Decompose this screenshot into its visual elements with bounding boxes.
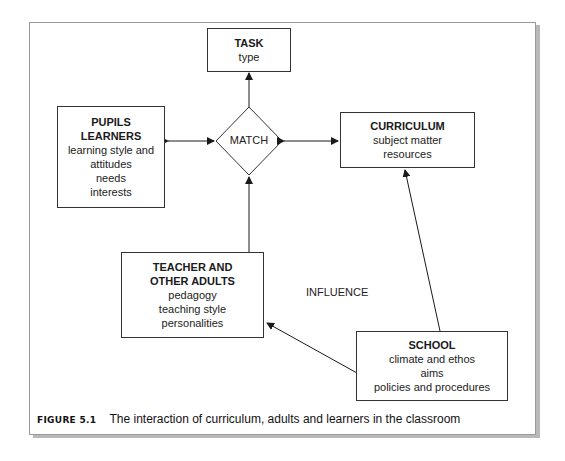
influence-label: INFLUENCE xyxy=(306,286,368,298)
curriculum-title: CURRICULUM xyxy=(370,119,445,133)
pupils-line: learning style and xyxy=(68,143,154,157)
school-line: aims xyxy=(420,366,443,380)
curriculum-box: CURRICULUM subject matter resources xyxy=(340,112,475,168)
pupils-line: needs xyxy=(96,171,126,185)
school-line: climate and ethos xyxy=(389,352,475,366)
other-adults-title: OTHER ADULTS xyxy=(150,274,235,288)
task-title: TASK xyxy=(234,36,263,50)
pupils-line: attitudes xyxy=(90,157,132,171)
teacher-line: personalities xyxy=(162,316,224,330)
learners-title: LEARNERS xyxy=(81,129,142,143)
curriculum-line: resources xyxy=(383,147,431,161)
teacher-box: TEACHER AND OTHER ADULTS pedagogy teachi… xyxy=(121,252,264,338)
figure-caption-text: The interaction of curriculum, adults an… xyxy=(109,412,460,426)
figure-number: FIGURE 5.1 xyxy=(37,415,96,425)
task-line: type xyxy=(239,50,260,64)
pupils-title: PUPILS xyxy=(91,115,131,129)
school-title: SCHOOL xyxy=(408,338,455,352)
match-label: MATCH xyxy=(216,134,282,146)
school-line: policies and procedures xyxy=(374,380,490,394)
pupils-line: interests xyxy=(90,185,132,199)
school-box: SCHOOL climate and ethos aims policies a… xyxy=(356,331,508,401)
curriculum-line: subject matter xyxy=(373,133,442,147)
figure-caption: FIGURE 5.1 The interaction of curriculum… xyxy=(37,412,460,426)
teacher-line: teaching style xyxy=(159,302,226,316)
arrow-school-to-teacher xyxy=(267,323,357,373)
task-box: TASK type xyxy=(207,28,291,72)
pupils-box: PUPILS LEARNERS learning style and attit… xyxy=(57,106,165,208)
teacher-title: TEACHER AND xyxy=(153,260,233,274)
arrow-school-to-curriculum xyxy=(405,170,440,331)
teacher-line: pedagogy xyxy=(168,288,216,302)
